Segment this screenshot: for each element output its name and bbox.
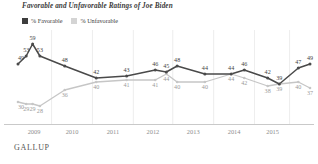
data-point [63,65,66,68]
chart-legend: % Favorable % Unfavorable [22,17,118,24]
data-point [297,81,300,84]
legend-swatch-favorable [22,18,28,24]
x-tick-label-2011: 2011 [107,128,120,135]
legend-item-unfavorable: % Unfavorable [71,17,118,24]
data-label: 53 [37,47,43,53]
data-point [31,103,34,106]
line-chart-svg: 3029292836404141444040444238394037495359… [0,28,318,138]
data-label: 44 [202,65,208,71]
data-point [39,105,42,108]
data-label: 48 [174,57,180,63]
data-label: 42 [93,69,99,75]
data-label: 40 [202,84,208,90]
data-label: 37 [307,90,313,96]
x-tick-label-2012: 2012 [147,128,160,135]
data-label: 39 [276,75,282,81]
data-point [95,81,98,84]
data-label: 53 [23,47,29,53]
source-label: GALLUP [14,143,50,152]
data-label: 46 [241,61,247,67]
data-point [154,79,157,82]
data-point [243,77,246,80]
x-tick-label-2013: 2013 [187,128,200,135]
data-point [309,63,312,66]
data-point [17,101,20,104]
page-title: Favorable and Unfavorable Ratings of Joe… [22,2,173,10]
data-point [25,103,28,106]
data-label: 28 [37,108,43,114]
data-point [176,81,179,84]
data-label: 40 [295,84,301,90]
legend-swatch-unfavorable [71,18,77,24]
x-tick-label-2015: 2015 [266,128,279,135]
data-label: 39 [276,86,282,92]
data-point [266,77,269,80]
legend-item-favorable: % Favorable [22,17,62,24]
data-label: 44 [163,76,169,82]
chart-plot-area: 3029292836404141444040444238394037495359… [0,28,318,138]
data-label: 42 [265,69,271,75]
data-label: 43 [124,67,130,73]
data-label: 44 [228,76,234,82]
data-label: 40 [174,84,180,90]
data-point [165,71,168,74]
data-point [63,89,66,92]
data-point [203,73,206,76]
data-label: 41 [152,82,158,88]
data-label: 29 [30,106,36,112]
data-point [38,55,41,58]
data-label: 49 [18,55,24,61]
data-point [31,43,34,46]
data-label: 45 [163,63,169,69]
legend-label-favorable: % Favorable [31,17,62,24]
data-point [243,69,246,72]
data-label: 41 [124,82,130,88]
data-label: 36 [62,92,68,98]
legend-label-unfavorable: % Unfavorable [80,17,118,24]
data-label: 40 [93,84,99,90]
data-point [278,83,281,86]
data-point [204,81,207,84]
data-point [309,87,312,90]
x-tick-label-2009: 2009 [28,128,41,135]
data-label: 42 [241,80,247,86]
data-point [25,55,28,58]
data-label: 38 [265,88,271,94]
data-point [176,65,179,68]
data-point [297,67,300,70]
data-point [266,85,269,88]
data-point [125,75,128,78]
data-label: 44 [228,65,234,71]
data-label: 59 [30,35,36,41]
data-label: 29 [23,106,29,112]
data-point [230,73,233,76]
x-tick-label-2010: 2010 [66,128,79,135]
x-tick-label-2014: 2014 [228,128,242,135]
data-label: 46 [152,61,158,67]
data-point [154,69,157,72]
gallup-chart: Favorable and Unfavorable Ratings of Joe… [0,0,318,164]
data-point [17,63,20,66]
data-point [95,77,98,80]
data-label: 48 [62,57,68,63]
data-point [125,79,128,82]
data-label: 47 [295,59,301,65]
data-label: 49 [307,55,313,61]
